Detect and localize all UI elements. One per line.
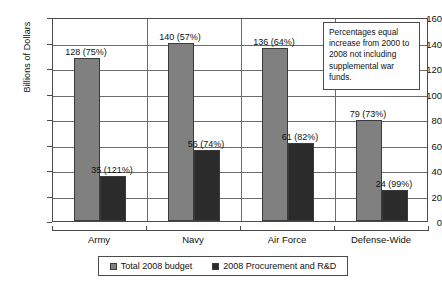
bar-total-budget bbox=[168, 43, 194, 222]
legend-item-total-budget: Total 2008 budget bbox=[110, 261, 193, 271]
y-axis-title: Billions of Dollars bbox=[22, 0, 32, 117]
bar-procurement bbox=[100, 176, 126, 221]
bar-procurement bbox=[382, 190, 408, 221]
bar-value-label: 136 (64%) bbox=[253, 37, 295, 47]
legend-label-total-budget: Total 2008 budget bbox=[121, 261, 193, 271]
gridline bbox=[53, 96, 427, 97]
bar-value-label: 128 (75%) bbox=[65, 47, 107, 57]
chart-screenshot: Billions of Dollars 02040608010012014016… bbox=[0, 0, 442, 287]
bar-procurement bbox=[288, 143, 314, 221]
legend-swatch-procurement bbox=[212, 263, 219, 270]
bar-total-budget bbox=[356, 120, 382, 221]
bar-value-label: 140 (57%) bbox=[159, 32, 201, 42]
y-axis-tick-mark bbox=[47, 222, 52, 223]
legend-item-procurement: 2008 Procurement and R&D bbox=[212, 261, 336, 271]
category-separator bbox=[147, 19, 148, 221]
legend-swatch-total-budget bbox=[110, 263, 117, 270]
x-axis-tick-mark bbox=[52, 226, 53, 231]
bar-value-label: 79 (73%) bbox=[350, 109, 387, 119]
legend-label-procurement: 2008 Procurement and R&D bbox=[223, 261, 336, 271]
annotation-callout: Percentages equal increase from 2000 to … bbox=[323, 22, 420, 90]
bar-procurement bbox=[194, 150, 220, 221]
x-axis-tick-mark bbox=[334, 226, 335, 231]
legend: Total 2008 budget 2008 Procurement and R… bbox=[98, 256, 348, 276]
bar-value-label: 24 (99%) bbox=[376, 179, 413, 189]
x-axis-tick-mark bbox=[240, 226, 241, 231]
x-axis-tick-label: Defense-Wide bbox=[351, 234, 411, 245]
x-axis-tick-label: Army bbox=[88, 234, 110, 245]
bar-value-label: 56 (74%) bbox=[188, 139, 225, 149]
bar-value-label: 61 (82%) bbox=[282, 132, 319, 142]
category-separator bbox=[241, 19, 242, 221]
x-axis-tick-label: Navy bbox=[182, 234, 204, 245]
bar-value-label: 35 (121%) bbox=[91, 165, 133, 175]
x-axis-tick-mark bbox=[428, 226, 429, 231]
x-axis-tick-label: Air Force bbox=[268, 234, 307, 245]
x-axis-tick-mark bbox=[146, 226, 147, 231]
bar-total-budget bbox=[74, 58, 100, 221]
